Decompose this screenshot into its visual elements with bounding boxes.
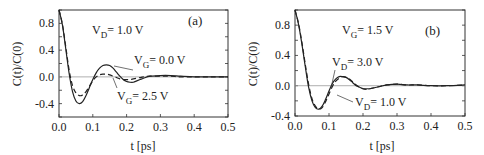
annotation-arrow bbox=[113, 78, 117, 88]
x-axis-label: t [ps] bbox=[370, 139, 395, 153]
series-line bbox=[59, 10, 228, 96]
x-tick-label: 0.5 bbox=[221, 120, 236, 134]
panel-a: -0.40.00.40.8 0.00.10.20.30.40.5 C(t)/C(… bbox=[10, 10, 236, 153]
x-tick-label: 0.3 bbox=[390, 119, 405, 133]
y-tick-label: 0.0 bbox=[275, 79, 290, 93]
y-axis-label: C(t)/C(0) bbox=[246, 42, 260, 87]
annotation-vg-0: VG= 0.0 V bbox=[134, 53, 186, 70]
annotation-arrow bbox=[337, 95, 353, 102]
x-tick-label: 0.5 bbox=[458, 119, 473, 133]
panel-label: (b) bbox=[425, 23, 440, 38]
annotation-vg-25: VG= 2.5 V bbox=[117, 89, 169, 106]
y-axis-label: C(t)/C(0) bbox=[10, 42, 24, 87]
y-tick-label: -0.4 bbox=[35, 97, 54, 111]
condition-label: VG= 1.5 V bbox=[342, 23, 394, 40]
annotation-vd-30: VD= 3.0 V bbox=[332, 55, 384, 72]
y-tick-label: 0.8 bbox=[275, 18, 290, 32]
y-tick-label: 0.4 bbox=[275, 48, 290, 62]
annotation-arrow bbox=[114, 66, 133, 70]
x-tick-label: 0.2 bbox=[119, 120, 134, 134]
annotation-vd-10: VD= 1.0 V bbox=[355, 95, 407, 112]
x-tick-label: 0.0 bbox=[288, 119, 303, 133]
x-axis-label: t [ps] bbox=[131, 139, 156, 153]
x-tick-label: 0.1 bbox=[322, 119, 337, 133]
x-tick-label: 0.3 bbox=[153, 120, 168, 134]
y-tick-label: 0.4 bbox=[39, 43, 54, 57]
x-tick-label: 0.0 bbox=[52, 120, 67, 134]
x-tick-label: 0.1 bbox=[85, 120, 100, 134]
figure: -0.40.00.40.8 0.00.10.20.30.40.5 C(t)/C(… bbox=[0, 0, 484, 155]
condition-label: VD= 1.0 V bbox=[92, 23, 144, 40]
panel-label: (a) bbox=[188, 13, 202, 28]
x-tick-label: 0.4 bbox=[424, 119, 439, 133]
y-tick-label: 0.8 bbox=[39, 16, 54, 30]
panel-b: -0.40.00.40.8 0.00.10.20.30.40.5 C(t)/C(… bbox=[246, 10, 473, 153]
x-tick-label: 0.2 bbox=[356, 119, 371, 133]
y-tick-label: 0.0 bbox=[39, 70, 54, 84]
x-tick-label: 0.4 bbox=[187, 120, 202, 134]
